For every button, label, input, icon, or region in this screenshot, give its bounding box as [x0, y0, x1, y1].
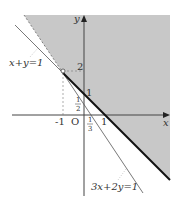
shaded-region: [24, 15, 170, 180]
line-label-x-plus-y: x+y=1: [9, 57, 43, 68]
tick-y-1: 1: [86, 87, 92, 98]
tick-x-third-den: 3: [88, 125, 92, 133]
tick-y-2: 2: [77, 61, 83, 72]
line-label-3x-plus-2y: 3x+2y=1: [91, 181, 138, 192]
open-point: [61, 69, 65, 73]
y-axis-label: y: [73, 13, 80, 24]
tick-y-half-den: 2: [76, 105, 80, 113]
x-axis-label: x: [163, 117, 169, 128]
leader-x-plus-y: [30, 48, 38, 57]
tick-x-1: 1: [101, 116, 107, 127]
coordinate-plane: y x O -1 1 1 3 1 2 1 2 x+y=1 3x+2y=1: [0, 0, 183, 206]
diagram: y x O -1 1 1 3 1 2 1 2 x+y=1 3x+2y=1: [0, 0, 183, 206]
tick-x-neg1: -1: [55, 116, 65, 127]
tick-y-half-num: 1: [76, 96, 80, 104]
tick-x-third-num: 1: [88, 116, 92, 124]
origin-label: O: [71, 116, 79, 127]
leader-3x-plus-2y: [118, 169, 126, 180]
